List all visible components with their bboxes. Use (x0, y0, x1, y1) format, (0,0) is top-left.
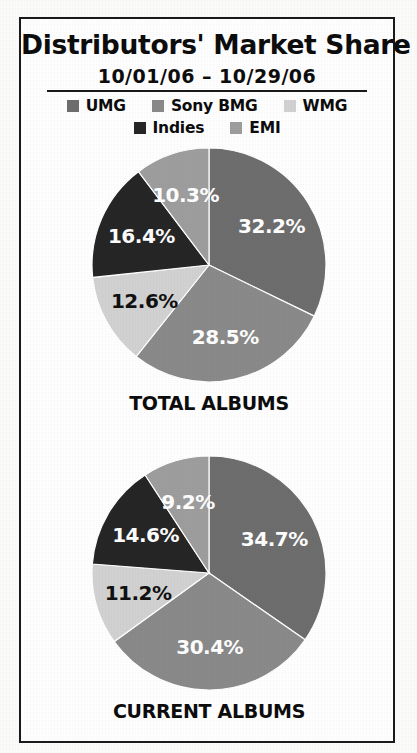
legend-item-indies[interactable]: Indies (134, 119, 205, 137)
page-title: Distributors' Market Share (21, 29, 393, 60)
pie-slice-label: 12.6% (111, 289, 178, 313)
caption-current-albums: CURRENT ALBUMS (21, 700, 397, 722)
pie-slice-label: 34.7% (241, 527, 308, 551)
pie-current-albums: 34.7%30.4%11.2%14.6%9.2% (21, 453, 397, 693)
pie-slice-label: 28.5% (192, 325, 259, 349)
pie-svg: 32.2%28.5%12.6%16.4%10.3% (89, 145, 329, 385)
pie-slice-label: 10.3% (152, 183, 219, 207)
caption-total-albums: TOTAL ALBUMS (21, 392, 397, 414)
pie-slice-label: 14.6% (112, 523, 179, 547)
legend-item-label: Sony BMG (171, 97, 258, 115)
legend-item-umg[interactable]: UMG (67, 97, 126, 115)
pie-total-albums: 32.2%28.5%12.6%16.4%10.3% (21, 145, 397, 385)
chart-frame: Distributors' Market Share 10/01/06 – 10… (19, 17, 395, 743)
pie-slice-label: 16.4% (108, 224, 175, 248)
legend-swatch-wmg (284, 100, 296, 112)
pie-svg: 34.7%30.4%11.2%14.6%9.2% (89, 453, 329, 693)
pie-slice-label: 11.2% (105, 581, 172, 605)
legend-item-label: WMG (303, 97, 348, 115)
chart-total-albums: 32.2%28.5%12.6%16.4%10.3% TOTAL ALBUMS (21, 145, 397, 414)
scanned-page: Distributors' Market Share 10/01/06 – 10… (0, 0, 417, 753)
date-range-subtitle: 10/01/06 – 10/29/06 (21, 65, 393, 87)
pie-slice-label: 9.2% (161, 490, 215, 514)
legend-swatch-umg (67, 100, 79, 112)
pie-slice-label: 30.4% (176, 635, 243, 659)
legend-row-secondary: IndiesEMI (21, 119, 393, 137)
header-divider (47, 90, 367, 92)
legend-item-label: Indies (153, 119, 205, 137)
legend-swatch-emi (230, 122, 242, 134)
legend-item-emi[interactable]: EMI (230, 119, 280, 137)
legend-swatch-sony-bmg (152, 100, 164, 112)
legend-item-label: EMI (249, 119, 280, 137)
legend-item-label: UMG (86, 97, 126, 115)
pie-slice-label: 32.2% (238, 214, 305, 238)
legend-item-wmg[interactable]: WMG (284, 97, 348, 115)
legend-swatch-indies (134, 122, 146, 134)
chart-current-albums: 34.7%30.4%11.2%14.6%9.2% CURRENT ALBUMS (21, 453, 397, 722)
legend-row-primary: UMGSony BMGWMG (21, 97, 393, 115)
legend-item-sony-bmg[interactable]: Sony BMG (152, 97, 258, 115)
